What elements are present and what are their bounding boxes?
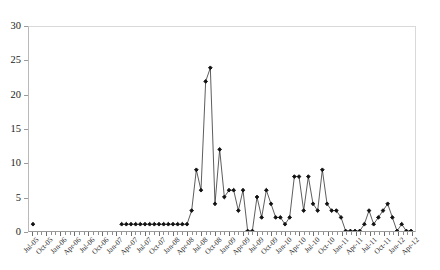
x-tick-mark: [220, 232, 221, 235]
x-tick-mark: [98, 232, 99, 235]
data-point-marker: [255, 195, 259, 199]
data-point-marker: [162, 222, 166, 226]
x-tick-mark: [210, 232, 211, 235]
chart-title-remnant: [0, 0, 440, 12]
x-tick-mark: [149, 232, 150, 235]
x-tick-mark: [389, 232, 390, 235]
x-tick-mark: [37, 232, 38, 235]
x-axis: Jul-05Oct-05Jan-06Apr-06Jul-06Oct-06Jan-…: [0, 236, 440, 270]
y-tick-label: 20: [11, 89, 22, 100]
y-tick-label: 10: [11, 158, 22, 169]
x-tick-mark: [192, 232, 193, 235]
data-point-marker: [199, 188, 203, 192]
x-tick-mark: [290, 232, 291, 235]
data-point-marker: [353, 229, 357, 231]
x-tick-mark: [295, 232, 296, 235]
data-point-marker: [176, 222, 180, 226]
x-tick-mark: [318, 232, 319, 235]
plot-area: [28, 26, 416, 232]
y-tick-label: 25: [11, 55, 22, 66]
x-tick-mark: [234, 232, 235, 235]
x-tick-mark: [206, 232, 207, 235]
data-point-marker: [134, 222, 138, 226]
data-point-marker: [208, 66, 212, 70]
chart-container: 051015202530 Jul-05Oct-05Jan-06Apr-06Jul…: [0, 0, 440, 270]
data-point-marker: [213, 202, 217, 206]
x-tick-mark: [79, 232, 80, 235]
data-point-marker: [218, 148, 222, 152]
y-tick-label: 5: [16, 192, 21, 203]
x-tick-mark: [407, 232, 408, 235]
data-point-marker: [241, 188, 245, 192]
x-tick-mark: [337, 232, 338, 235]
data-point-marker: [124, 222, 128, 226]
x-tick-mark: [112, 232, 113, 235]
y-tick-label: 15: [11, 124, 22, 135]
data-point-marker: [348, 229, 352, 231]
x-tick-mark: [65, 232, 66, 235]
y-tick-label: 30: [11, 21, 22, 32]
data-point-marker: [250, 229, 254, 231]
data-point-marker: [292, 175, 296, 179]
data-point-marker: [143, 222, 147, 226]
data-point-marker: [246, 229, 250, 231]
x-tick-mark: [168, 232, 169, 235]
x-tick-mark: [262, 232, 263, 235]
x-tick-mark: [360, 232, 361, 235]
data-point-marker: [148, 222, 152, 226]
x-tick-mark: [126, 232, 127, 235]
data-point-marker: [320, 168, 324, 172]
x-tick-mark: [323, 232, 324, 235]
x-tick-mark: [281, 232, 282, 235]
data-point-marker: [302, 209, 306, 213]
data-point-marker: [185, 222, 189, 226]
data-point-marker: [31, 222, 35, 226]
x-tick-mark: [309, 232, 310, 235]
data-point-marker: [306, 175, 310, 179]
data-point-marker: [171, 222, 175, 226]
x-tick-mark: [93, 232, 94, 235]
data-point-marker: [409, 229, 413, 231]
x-tick-mark: [177, 232, 178, 235]
x-tick-mark: [267, 232, 268, 235]
data-point-marker: [138, 222, 142, 226]
data-point-marker: [344, 229, 348, 231]
data-point-marker: [152, 222, 156, 226]
x-tick-mark: [41, 232, 42, 235]
x-tick-mark: [351, 232, 352, 235]
x-tick-mark: [107, 232, 108, 235]
x-tick-mark: [224, 232, 225, 235]
data-point-marker: [260, 216, 264, 220]
x-tick-mark: [51, 232, 52, 235]
data-point-marker: [297, 175, 301, 179]
data-point-marker: [232, 188, 236, 192]
series-line: [122, 68, 411, 231]
x-tick-mark: [154, 232, 155, 235]
data-point-marker: [367, 209, 371, 213]
x-tick-mark: [70, 232, 71, 235]
data-point-marker: [390, 216, 394, 220]
data-series: [29, 27, 415, 231]
x-tick-mark: [140, 232, 141, 235]
x-tick-mark: [393, 232, 394, 235]
data-point-marker: [236, 209, 240, 213]
data-point-marker: [129, 222, 133, 226]
x-tick-mark: [84, 232, 85, 235]
x-tick-mark: [121, 232, 122, 235]
x-tick-mark: [304, 232, 305, 235]
data-point-marker: [194, 168, 198, 172]
x-tick-mark: [365, 232, 366, 235]
x-tick-mark: [252, 232, 253, 235]
data-point-marker: [274, 216, 278, 220]
data-point-marker: [264, 188, 268, 192]
x-tick-mark: [196, 232, 197, 235]
data-point-marker: [120, 222, 124, 226]
x-tick-mark: [374, 232, 375, 235]
data-point-marker: [166, 222, 170, 226]
data-point-marker: [204, 80, 208, 84]
x-tick-mark: [163, 232, 164, 235]
x-tick-mark: [379, 232, 380, 235]
data-point-marker: [157, 222, 161, 226]
x-tick-mark: [55, 232, 56, 235]
x-tick-mark: [332, 232, 333, 235]
